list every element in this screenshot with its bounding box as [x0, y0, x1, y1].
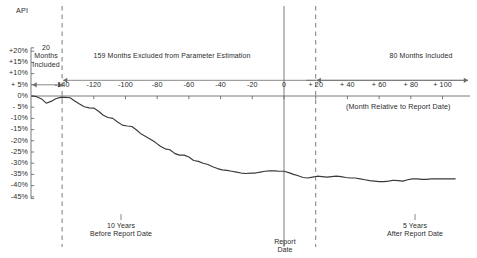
annotation-five-years-after: 5 Years After Report Date [387, 222, 443, 239]
annotation-months-included-left: 20 Months Included [32, 44, 59, 69]
y-tick-label: -35% [0, 170, 28, 178]
annotation-months-excluded: 159 Months Excluded from Parameter Estim… [93, 52, 250, 60]
report-date-line2: Date [274, 246, 296, 254]
chart-figure: API +20%+15%+10%+ 5%0%- 5%-10%-15%-20%-2… [0, 0, 477, 258]
annotation-left-line1: 20 [32, 44, 59, 52]
report-date-line1: Report [274, 238, 296, 246]
five-years-after-line2: After Report Date [387, 230, 443, 238]
x-tick-label: + 100 [433, 81, 452, 89]
y-tick-label: -30% [0, 159, 28, 167]
x-axis-caption: (Month Relative to Report Date) [346, 103, 451, 111]
x-tick-label: -60 [184, 81, 195, 89]
ten-years-before-line2: Before Report Date [90, 230, 152, 238]
x-tick-label: + 80 [404, 81, 419, 89]
y-tick-label: +10% [0, 69, 28, 77]
annotation-left-line2: Months [32, 52, 59, 60]
y-tick-label: 0% [0, 92, 28, 100]
y-tick-label: -20% [0, 137, 28, 145]
chart-canvas [0, 0, 477, 258]
y-tick-label: + 5% [0, 81, 28, 89]
x-tick-label: + 20 [308, 81, 323, 89]
x-tick-label: -100 [118, 81, 133, 89]
y-tick-label: -25% [0, 148, 28, 156]
annotation-months-included-right: 80 Months Included [390, 52, 453, 60]
annotation-ten-years-before: 10 Years Before Report Date [90, 222, 152, 239]
annotation-report-date: Report Date [274, 238, 296, 255]
y-tick-label: -40% [0, 181, 28, 189]
x-tick-label: + 60 [372, 81, 387, 89]
y-tick-label: +20% [0, 47, 28, 55]
arrow-months-included-right-head-right [464, 78, 468, 83]
annotation-left-line3: Included [32, 61, 59, 69]
x-tick-label: -80 [152, 81, 163, 89]
y-tick-label: -15% [0, 125, 28, 133]
y-tick-label: -45% [0, 193, 28, 201]
y-axis-title: API [0, 7, 28, 15]
five-years-after-line1: 5 Years [387, 222, 443, 230]
x-tick-label: -120 [86, 81, 101, 89]
x-tick-label: + 40 [340, 81, 355, 89]
y-tick-label: - 5% [0, 103, 28, 111]
x-tick-label: -20 [247, 81, 258, 89]
x-tick-label: 0 [282, 81, 286, 89]
x-tick-label: -40 [215, 81, 226, 89]
x-tick-label: -140 [55, 81, 70, 89]
arrow-months-included-left-head-left [33, 82, 37, 87]
y-tick-label: -10% [0, 114, 28, 122]
ten-years-before-line1: 10 Years [90, 222, 152, 230]
y-tick-label: +15% [0, 58, 28, 66]
